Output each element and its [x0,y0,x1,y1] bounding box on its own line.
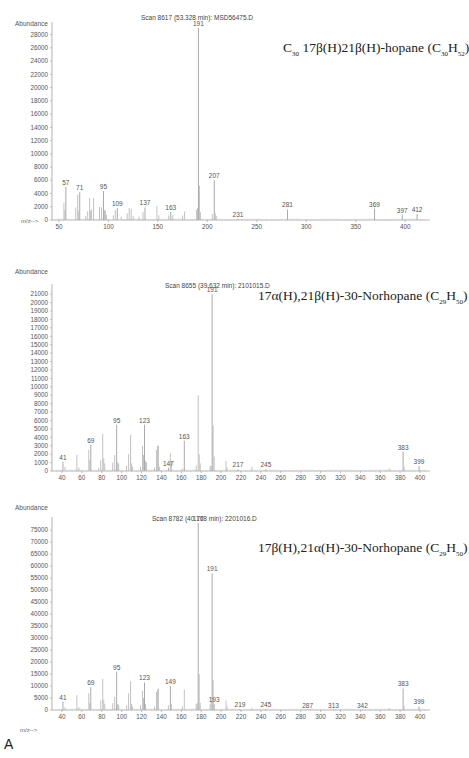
peak-label: 95 [113,417,121,424]
peak-label: 69 [87,437,95,444]
peak-label: 41 [59,694,67,701]
x-tick-label: 380 [395,713,406,720]
y-tick-label: 60000 [30,562,48,569]
x-tick-label: 340 [355,713,366,720]
y-tick-label: 18000 [30,316,48,323]
y-tick-label: 28000 [30,31,48,38]
x-tick-label: 300 [315,713,326,720]
peak-label: 399 [414,698,425,705]
peak-label: 369 [369,201,380,208]
x-tick-label: 200 [216,474,227,481]
x-tick-label: 260 [276,474,287,481]
mass-spectrum-plot: 0100020003000400050006000700080009000100… [0,240,466,495]
x-tick-label: 40 [58,474,66,481]
y-tick-label: 8000 [34,163,49,170]
x-tick-label: 120 [136,474,147,481]
spectrum-panel-2: Abundance Scan 8655 (39.632 min): 210101… [0,240,466,495]
peak-label: 207 [209,172,220,179]
y-tick-label: 35000 [30,622,48,629]
peak-label: 412 [412,206,423,213]
x-tick-label: 100 [103,223,114,230]
y-tick-label: 12000 [30,366,48,373]
x-tick-label: 240 [256,713,267,720]
x-tick-label: 320 [335,713,346,720]
y-tick-label: 8000 [34,400,49,407]
x-tick-label: 160 [176,474,187,481]
x-tick-label: 220 [236,713,247,720]
y-tick-label: 13000 [30,358,48,365]
peak-label: 245 [260,461,271,468]
y-tick-label: 12000 [30,137,48,144]
peak-label: 149 [165,678,176,685]
y-tick-label: 45000 [30,598,48,605]
x-tick-label: 180 [196,713,207,720]
x-tick-label: 140 [156,713,167,720]
peak-label: 191 [193,20,204,27]
spectrum-panel-3: Abundance Scan 8782 (40.168 min): 220101… [0,495,466,758]
peak-label: 123 [139,674,150,681]
y-tick-label: 65000 [30,550,48,557]
y-tick-label: 75000 [30,526,48,533]
peak-label: 95 [113,664,121,671]
x-tick-label: 40 [58,713,66,720]
y-tick-label: 14000 [30,124,48,131]
peak-label: 177 [193,515,204,522]
x-tick-label: 100 [116,713,127,720]
peak-label: 147 [163,460,174,467]
y-tick-label: 10000 [30,383,48,390]
peak-label: 163 [179,433,190,440]
y-tick-label: 11000 [31,375,49,382]
peak-label: 383 [398,444,409,451]
x-tick-label: 360 [375,474,386,481]
y-tick-label: 9000 [34,391,49,398]
x-tick-label: 320 [335,474,346,481]
y-tick-label: 14000 [30,349,48,356]
peak-label: 163 [165,204,176,211]
y-tick-label: 70000 [30,538,48,545]
x-tick-label: 380 [395,474,406,481]
peak-label: 231 [233,211,244,218]
y-tick-label: 0 [44,467,48,474]
y-tick-label: 15000 [30,341,48,348]
x-tick-label: 80 [98,474,106,481]
y-tick-label: 4000 [34,190,49,197]
y-tick-label: 20000 [30,299,48,306]
y-tick-label: 20000 [30,84,48,91]
x-tick-label: 220 [236,474,247,481]
y-tick-label: 17000 [30,324,48,331]
y-tick-label: 25000 [30,646,48,653]
y-tick-label: 1000 [34,459,49,466]
peak-label: 287 [302,702,313,709]
y-tick-label: 19000 [30,307,48,314]
x-tick-label: 260 [276,713,287,720]
y-tick-label: 7000 [34,408,49,415]
x-tick-label: 180 [196,474,207,481]
y-tick-label: 50000 [30,586,48,593]
x-tick-label: 200 [216,713,227,720]
peak-label: 281 [282,201,293,208]
x-tick-label: 150 [153,223,164,230]
y-tick-label: 26000 [30,44,48,51]
peak-label: 137 [140,199,151,206]
x-tick-label: 300 [315,474,326,481]
x-tick-label: 400 [400,223,411,230]
peak-label: 69 [87,679,95,686]
x-tick-label: 400 [415,474,426,481]
peak-label: 245 [260,701,271,708]
y-tick-label: 3000 [34,442,49,449]
figure-panel-letter: A [4,736,13,752]
y-tick-label: 40000 [30,610,48,617]
y-tick-label: 0 [44,706,48,713]
peak-label: 191 [207,565,218,572]
y-tick-label: 16000 [30,333,48,340]
mass-spectrum-plot: 0500010000150002000025000300003500040000… [0,495,466,758]
x-tick-label: 200 [202,223,213,230]
peak-label: 217 [233,461,244,468]
y-tick-label: 55000 [30,574,48,581]
y-tick-label: 22000 [30,71,48,78]
peak-label: 342 [357,702,368,709]
peak-label: 383 [398,680,409,687]
y-tick-label: 2000 [34,450,49,457]
y-tick-label: 24000 [30,57,48,64]
peak-label: 397 [397,207,408,214]
